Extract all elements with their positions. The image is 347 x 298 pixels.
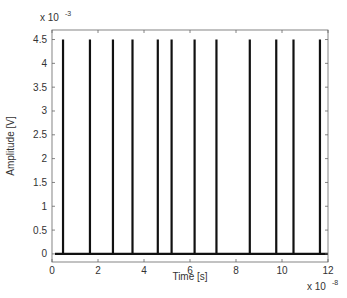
x-tick-label: 2: [95, 265, 101, 276]
x-tick-label: 0: [49, 265, 55, 276]
y-tick-label: 4: [41, 58, 47, 69]
svg-text:-8: -8: [332, 279, 338, 286]
y-tick-label: 2.5: [33, 129, 47, 140]
axes: 02468101200.511.522.533.544.5: [33, 30, 334, 276]
y-tick-label: 1.5: [33, 177, 47, 188]
pulse-train-chart: 02468101200.511.522.533.544.5 Time [s] A…: [0, 0, 347, 298]
x-tick-label: 10: [276, 265, 288, 276]
y-tick-label: 4.5: [33, 34, 47, 45]
x-axis-label: Time [s]: [172, 271, 207, 282]
axes-box: [52, 30, 328, 262]
y-tick-label: 1: [41, 201, 47, 212]
y-axis-label: Amplitude [V]: [5, 116, 16, 176]
svg-text:x 10: x 10: [307, 281, 326, 292]
svg-text:-3: -3: [65, 10, 71, 17]
x-tick-label: 8: [233, 265, 239, 276]
x-tick-label: 4: [141, 265, 147, 276]
y-tick-label: 2: [41, 153, 47, 164]
plot-area: [55, 40, 328, 254]
y-tick-label: 3.5: [33, 82, 47, 93]
y-multiplier: x 10 -3: [40, 10, 71, 23]
y-tick-label: 0: [41, 248, 47, 259]
y-tick-label: 0.5: [33, 225, 47, 236]
pulse-series-line: [55, 40, 328, 254]
svg-text:x 10: x 10: [40, 12, 59, 23]
x-tick-label: 12: [322, 265, 334, 276]
y-tick-label: 3: [41, 105, 47, 116]
x-multiplier: x 10 -8: [307, 279, 338, 292]
